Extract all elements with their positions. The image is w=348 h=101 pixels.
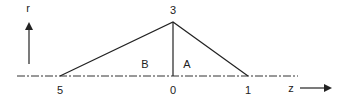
point-label-0: 0	[170, 84, 176, 96]
apex-label: 3	[170, 4, 176, 16]
region-label-b: B	[141, 58, 148, 70]
point-label-5: 5	[57, 84, 63, 96]
region-label-a: A	[183, 58, 191, 70]
triangle-outline	[60, 22, 248, 76]
r-axis-label: r	[26, 2, 30, 14]
point-label-1: 1	[245, 84, 251, 96]
triangle-diagram: r z 3 5 0 1 B A	[0, 0, 348, 101]
diagram-canvas: r z 3 5 0 1 B A	[0, 0, 348, 101]
z-axis-label: z	[288, 82, 294, 94]
